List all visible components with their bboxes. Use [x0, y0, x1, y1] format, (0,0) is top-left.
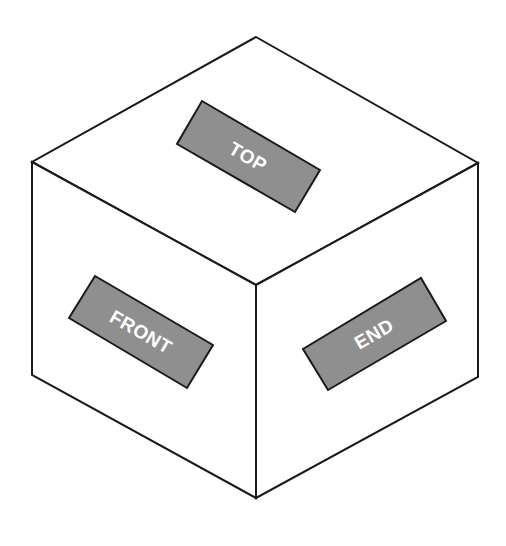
isometric-cube-diagram: TOP FRONT END: [0, 0, 506, 546]
